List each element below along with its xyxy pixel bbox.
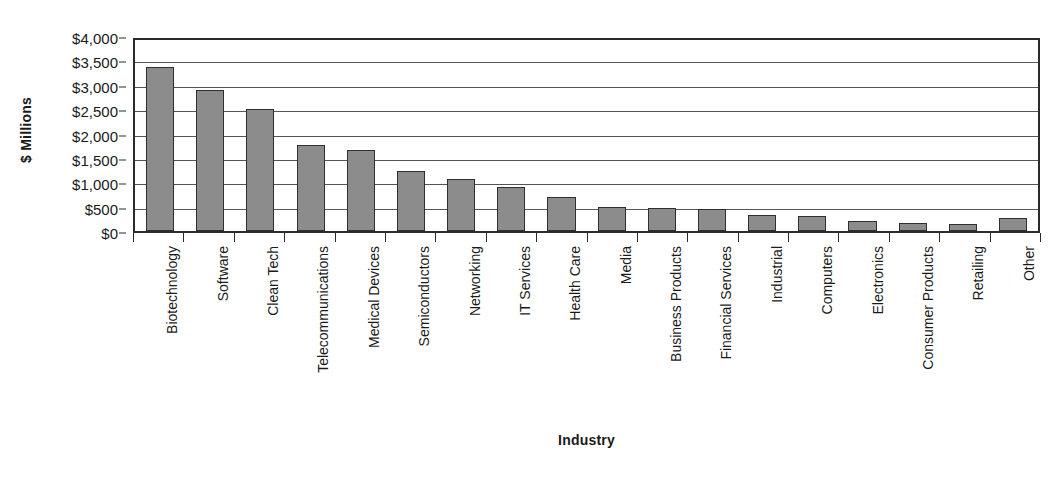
x-label-slot: Computers: [788, 246, 838, 421]
y-axis-tick-mark: [119, 159, 126, 160]
x-label-slot: Health Care: [536, 246, 586, 421]
bar-slot: [536, 40, 586, 231]
x-axis-category-label: Health Care: [568, 246, 582, 321]
bar-slot: [837, 40, 887, 231]
bar: [698, 209, 726, 231]
y-axis-tick-label: $2,000: [72, 127, 118, 144]
bar: [146, 67, 174, 231]
bar-slot: [235, 40, 285, 231]
x-axis-category-label: Electronics: [871, 246, 885, 314]
y-axis-tick-label: $500: [85, 200, 118, 217]
y-axis-tick-mark: [119, 111, 126, 112]
bar: [899, 223, 927, 231]
x-axis-tick-mark: [838, 233, 839, 242]
x-axis-tick-mark: [687, 233, 688, 242]
x-axis-category-label: Medical Devices: [367, 246, 381, 348]
y-axis-tick-label: $3,000: [72, 78, 118, 95]
x-axis-category-label: Computers: [820, 246, 834, 314]
bar: [347, 150, 375, 231]
y-axis-tick-label: $2,500: [72, 103, 118, 120]
x-axis-tick-mark: [385, 233, 386, 242]
y-axis-tick-label: $1,000: [72, 176, 118, 193]
x-axis-category-label: Other: [1022, 246, 1036, 281]
bar-slot: [486, 40, 536, 231]
x-axis-category-label: Retailing: [971, 246, 985, 300]
bar-slot: [135, 40, 185, 231]
x-axis-tick-mark: [435, 233, 436, 242]
bar: [798, 216, 826, 231]
x-label-slot: Telecommunications: [284, 246, 334, 421]
x-axis-tick-mark: [738, 233, 739, 242]
x-label-slot: Electronics: [838, 246, 888, 421]
x-label-slot: Business Products: [637, 246, 687, 421]
x-label-slot: Retailing: [939, 246, 989, 421]
bar: [547, 197, 575, 231]
y-axis-tick-labels: $4,000$3,500$3,000$2,500$2,000$1,500$1,0…: [36, 38, 126, 233]
bar: [297, 145, 325, 231]
x-axis-tick-marks: [133, 233, 1040, 243]
x-label-slot: Industrial: [738, 246, 788, 421]
x-label-slot: Clean Tech: [234, 246, 284, 421]
x-label-slot: Medical Devices: [335, 246, 385, 421]
bar-slot: [637, 40, 687, 231]
y-axis-tick-mark: [119, 135, 126, 136]
bar-slot: [787, 40, 837, 231]
y-axis-tick-mark: [119, 86, 126, 87]
bar-slot: [185, 40, 235, 231]
x-axis-tick-mark: [1040, 233, 1041, 242]
x-axis-tick-mark: [536, 233, 537, 242]
x-label-slot: Consumer Products: [889, 246, 939, 421]
bar-slot: [336, 40, 386, 231]
y-axis-tick-label: $4,000: [72, 30, 118, 47]
bar-slot: [436, 40, 486, 231]
plot-area: [133, 38, 1040, 233]
bar-slot: [988, 40, 1038, 231]
x-label-slot: Software: [183, 246, 233, 421]
x-axis-tick-mark: [637, 233, 638, 242]
bar: [748, 215, 776, 231]
y-axis-tick-label: $3,500: [72, 54, 118, 71]
bars-layer: [135, 40, 1038, 231]
bar: [848, 221, 876, 231]
bar: [497, 187, 525, 231]
bar: [447, 179, 475, 231]
y-axis-tick-mark: [119, 184, 126, 185]
bar-slot: [888, 40, 938, 231]
x-label-slot: Financial Services: [687, 246, 737, 421]
x-axis-tick-mark: [889, 233, 890, 242]
x-label-slot: Other: [990, 246, 1040, 421]
x-axis-tick-mark: [587, 233, 588, 242]
x-axis-category-label: Consumer Products: [921, 246, 935, 370]
bar-slot: [587, 40, 637, 231]
bar: [598, 207, 626, 231]
y-axis-tick-label: $0: [101, 225, 118, 242]
bar-slot: [687, 40, 737, 231]
bar-chart: $ Millions $4,000$3,500$3,000$2,500$2,00…: [0, 0, 1063, 490]
x-label-slot: Semiconductors: [385, 246, 435, 421]
x-axis-tick-mark: [788, 233, 789, 242]
x-axis-category-label: Business Products: [669, 246, 683, 362]
x-axis-tick-mark: [284, 233, 285, 242]
bar-slot: [938, 40, 988, 231]
x-axis-category-label: Software: [216, 246, 230, 301]
x-axis-category-label: Networking: [468, 246, 482, 316]
x-axis-tick-mark: [183, 233, 184, 242]
x-axis-tick-mark: [990, 233, 991, 242]
x-axis-category-label: Semiconductors: [417, 246, 431, 346]
y-axis-title-label: $ Millions: [18, 97, 34, 163]
x-axis-tick-mark: [486, 233, 487, 242]
bar: [648, 208, 676, 231]
bar-slot: [386, 40, 436, 231]
x-axis-category-label: Media: [619, 246, 633, 284]
x-axis-tick-mark: [133, 233, 134, 242]
x-axis-tick-mark: [939, 233, 940, 242]
x-axis-tick-mark: [335, 233, 336, 242]
x-axis-category-label: Financial Services: [719, 246, 733, 360]
x-axis-tick-mark: [234, 233, 235, 242]
y-axis-tick-mark: [119, 208, 126, 209]
x-axis-category-label: IT Services: [518, 246, 532, 316]
x-axis-title: Industry: [133, 432, 1040, 448]
x-axis-category-label: Biotechnology: [165, 246, 179, 334]
x-axis-category-label: Clean Tech: [266, 246, 280, 316]
y-axis-tick-mark: [119, 233, 126, 234]
